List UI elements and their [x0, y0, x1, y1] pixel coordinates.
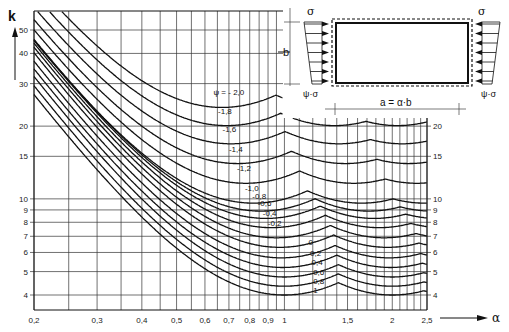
x-tick-label: 0,4: [136, 316, 148, 325]
curve-label: -1,6: [222, 125, 236, 134]
y-tick-label-right: 10: [433, 195, 442, 204]
curve-label: -1,8: [218, 107, 232, 116]
y-tick-label-left: 9: [24, 206, 29, 215]
x-tick-label: 0,6: [199, 316, 211, 325]
x-tick-label: 0,8: [244, 316, 256, 325]
curve-label: 1: [313, 286, 318, 295]
curve-label: 0,6: [313, 268, 325, 277]
x-axis-title: α: [492, 311, 500, 325]
x-tick-label: 1: [282, 316, 287, 325]
curve-label: 0,4: [312, 258, 324, 267]
y-tick-label-left: 15: [19, 152, 28, 161]
y-tick-label-right: 9: [433, 206, 438, 215]
y-tick-label-left: 10: [19, 195, 28, 204]
y-tick-label-left: 30: [19, 80, 28, 89]
psi-sigma-right-label: ψ·σ: [481, 89, 496, 99]
curve-label: -0,4: [263, 209, 277, 218]
height-label: b: [283, 46, 289, 58]
y-axis-arrow: [12, 27, 18, 80]
curve-label: -0,6: [258, 199, 272, 208]
y-tick-label-right: 4: [433, 291, 438, 300]
y-tick-label-right: 6: [433, 248, 438, 257]
curve-label: 0,2: [310, 249, 322, 258]
curve-label: -1,2: [237, 164, 251, 173]
curve-label: 0,8: [313, 277, 325, 286]
y-tick-label-right: 7: [433, 232, 438, 241]
curve-label: 0: [308, 238, 313, 247]
y-tick-label-left: 7: [24, 232, 29, 241]
y-tick-label-right: 8: [433, 218, 438, 227]
y-tick-label-left: 50: [19, 26, 28, 35]
y-tick-label-left: 40: [19, 49, 28, 58]
x-tick-label: 1,5: [342, 316, 354, 325]
x-tick-label: 0,2: [28, 316, 40, 325]
psi-sigma-left-label: ψ·σ: [303, 89, 318, 99]
y-tick-label-right: 15: [433, 152, 442, 161]
buckling-chart: ψ = - 2,0-1,8-1,6-1,4-1,2-1,0-0,8-0,6-0,…: [0, 0, 509, 332]
x-tick-label: 0,7: [223, 316, 235, 325]
sigma-right-label: σ: [478, 5, 486, 18]
curve-label: ψ = - 2,0: [213, 88, 244, 97]
sigma-left-label: σ: [307, 5, 315, 18]
y-tick-label-right: 20: [433, 122, 442, 131]
curve-label: -1,4: [229, 145, 243, 154]
y-tick-label-left: 20: [19, 122, 28, 131]
x-tick-label: 0,5: [171, 316, 183, 325]
y-tick-label-right: 5: [433, 268, 438, 277]
x-axis-arrow: [440, 315, 488, 321]
curve-label: -0,2: [268, 219, 282, 228]
x-tick-label: 2,5: [421, 316, 433, 325]
y-axis-title: k: [8, 8, 16, 24]
y-tick-label-left: 5: [24, 268, 29, 277]
y-tick-label-left: 8: [24, 218, 29, 227]
x-tick-label: 0,9: [262, 316, 274, 325]
width-label: a = α·b: [380, 97, 412, 108]
x-tick-label: 0,3: [92, 316, 104, 325]
y-tick-label-left: 6: [24, 248, 29, 257]
y-tick-label-left: 4: [24, 291, 29, 300]
x-tick-label: 2: [390, 316, 395, 325]
